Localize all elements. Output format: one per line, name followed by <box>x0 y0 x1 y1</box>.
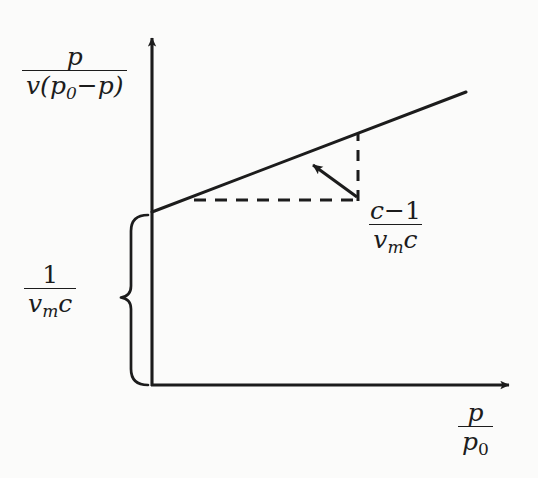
slope-den-c: c <box>404 225 418 254</box>
slope-label: c−1 vmc <box>366 198 425 256</box>
slope-numerator: c−1 <box>366 198 425 224</box>
intercept-brace <box>121 215 148 385</box>
slope-den-v: v <box>373 225 387 254</box>
intercept-numerator: 1 <box>38 262 62 288</box>
slope-pointer-arrow <box>313 165 357 197</box>
intercept-den-c: c <box>58 289 72 318</box>
y-axis-label: p v(p0−p) <box>22 44 127 102</box>
slope-den-subscript: m <box>387 237 403 257</box>
y-axis-den-suffix: −p) <box>77 71 124 100</box>
intercept-den-subscript: m <box>42 301 58 321</box>
slope-num-c: c <box>370 196 384 225</box>
x-axis-den-p: p <box>462 427 478 456</box>
bet-plot-figure: p v(p0−p) 1 vmc c−1 vmc p p0 <box>0 0 538 478</box>
x-axis-label-numerator: p <box>463 400 487 426</box>
bet-regression-line <box>152 92 466 212</box>
slope-denominator: vmc <box>369 224 421 256</box>
x-axis-label: p p0 <box>458 400 493 458</box>
intercept-den-v: v <box>28 289 42 318</box>
y-axis-label-denominator: v(p0−p) <box>22 70 127 102</box>
x-axis-den-subscript: 0 <box>478 439 489 459</box>
intercept-denominator: vmc <box>24 288 76 320</box>
y-axis-den-prefix: v(p <box>26 71 66 100</box>
slope-num-minus-one: −1 <box>384 196 421 225</box>
y-intercept-label: 1 vmc <box>24 262 76 320</box>
x-axis-label-denominator: p0 <box>458 426 493 458</box>
y-axis-label-numerator: p <box>63 44 87 70</box>
y-axis-den-subscript: 0 <box>66 83 77 103</box>
